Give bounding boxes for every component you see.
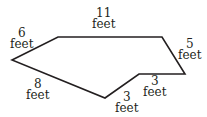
- side-label-6: 6 feet: [10, 28, 33, 50]
- side-unit: feet: [26, 90, 49, 101]
- side-label-3b: 3 feet: [115, 92, 138, 114]
- side-unit: feet: [178, 50, 201, 61]
- side-unit: feet: [92, 19, 115, 30]
- side-label-3a: 3 feet: [143, 76, 166, 98]
- side-unit: feet: [143, 87, 166, 98]
- side-unit: feet: [115, 103, 138, 114]
- side-unit: feet: [10, 39, 33, 50]
- side-label-5: 5 feet: [178, 39, 201, 61]
- side-label-8: 8 feet: [26, 79, 49, 101]
- side-label-11: 11 feet: [92, 8, 115, 30]
